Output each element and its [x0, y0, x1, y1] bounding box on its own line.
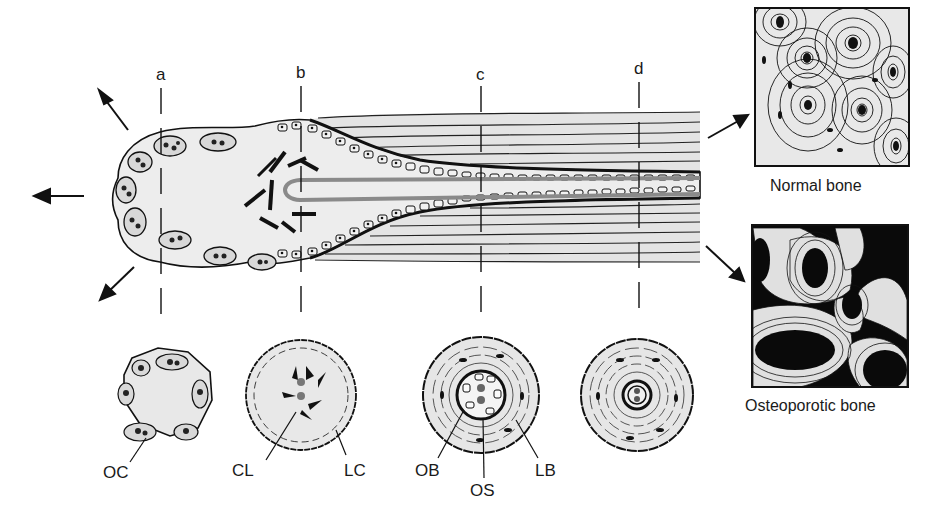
section-label-d: d [634, 60, 643, 77]
cross-section-a [118, 348, 212, 462]
label-ob: OB [415, 462, 440, 479]
normal-bone-panel [754, 0, 918, 174]
cross-section-b [246, 340, 356, 460]
bone-remodeling-diagram [0, 0, 937, 512]
caption-normal-bone: Normal bone [770, 178, 862, 194]
cross-section-c [423, 337, 539, 478]
osteoporotic-bone-panel [739, 225, 915, 397]
label-os: OS [470, 482, 495, 499]
panel-arrows [706, 115, 748, 281]
section-label-c: c [476, 66, 485, 83]
label-cl: CL [232, 462, 254, 479]
label-lc: LC [344, 462, 366, 479]
section-label-b: b [296, 64, 305, 81]
cutting-cone [113, 112, 700, 270]
label-oc: OC [103, 464, 129, 481]
caption-osteoporotic-bone: Osteoporotic bone [745, 398, 876, 414]
cross-section-d [581, 339, 693, 451]
section-label-a: a [156, 66, 165, 83]
label-lb: LB [535, 462, 556, 479]
